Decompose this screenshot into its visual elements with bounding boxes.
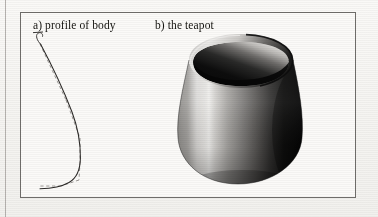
tangent-hook-icon [33, 32, 42, 44]
caption-panel-b: b) the teapot [155, 19, 214, 31]
caption-panel-a: a) profile of body [33, 19, 116, 31]
teapot-graphic [150, 12, 356, 198]
panel-profile-of-body [20, 12, 150, 198]
profile-curve [40, 44, 80, 189]
teapot-interior [193, 42, 289, 86]
control-polygon [40, 44, 80, 186]
scanned-page: a) profile of body b) the teapot [0, 0, 378, 217]
panel-the-teapot [150, 12, 356, 198]
profile-curve-graphic [20, 12, 150, 198]
page-edge-rule [5, 0, 6, 217]
